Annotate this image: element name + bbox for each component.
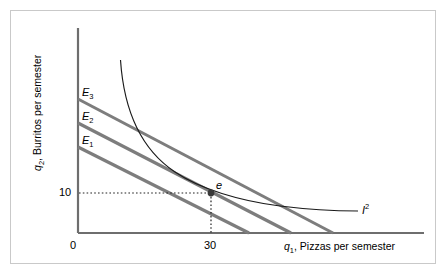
- budget-label-e2-sub: 2: [89, 116, 93, 125]
- budget-label-e3: E3: [82, 87, 94, 101]
- x-axis-title: q1, Pizzas per semester: [284, 241, 395, 255]
- y-axis-title-var: q: [31, 165, 43, 171]
- y-axis-title-sub: 2: [37, 161, 46, 165]
- y-tick-label-10: 10: [59, 187, 71, 198]
- budget-line-e1: [78, 147, 249, 233]
- figure-container: q2, Burritos per semester q1, Pizzas per…: [0, 0, 448, 277]
- budget-label-e1-sub: 1: [89, 140, 93, 149]
- y-axis-title-rest: , Burritos per semester: [31, 55, 43, 161]
- x-tick-label-30: 30: [204, 240, 216, 251]
- indifference-curve-i2: [121, 60, 359, 211]
- x-axis-title-rest: , Pizzas per semester: [294, 240, 395, 252]
- budget-label-e3-sub: 3: [89, 92, 93, 101]
- origin-label: 0: [70, 240, 76, 251]
- indifference-curve-label-sup: 2: [365, 202, 369, 211]
- indifference-curve-label: I2: [362, 203, 369, 216]
- budget-label-e2: E2: [82, 111, 94, 125]
- optimum-point-marker: [208, 190, 215, 197]
- plot-canvas: [0, 0, 448, 277]
- budget-label-e1: E1: [82, 135, 94, 149]
- optimum-point-label: e: [216, 180, 222, 191]
- y-axis-title: q2, Burritos per semester: [32, 43, 46, 183]
